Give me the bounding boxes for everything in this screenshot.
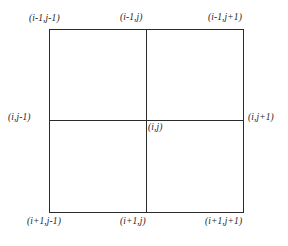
grid-lines [0,0,288,246]
square-edge-right [243,29,244,213]
node-label-top-left: (i-1,j-1) [29,14,60,24]
median-line-horizontal [49,120,244,121]
stencil-figure: (i-1,j-1) (i-1,j) (i-1,j+1) (i,j-1) (i,j… [0,0,288,246]
node-label-top-right: (i-1,j+1) [208,13,242,23]
node-label-bottom-left: (i+1,j-1) [27,217,61,227]
node-label-middle-right: (i,j+1) [248,113,274,123]
square-edge-left [49,29,50,213]
node-label-top-center: (i-1,j) [120,13,143,23]
node-label-middle-left: (i,j-1) [8,113,31,123]
node-label-bottom-right: (i+1,j+1) [205,217,242,227]
median-line-vertical [146,29,147,213]
node-label-bottom-center: (i+1,j) [120,217,146,227]
node-label-center: (i,j) [148,123,162,133]
